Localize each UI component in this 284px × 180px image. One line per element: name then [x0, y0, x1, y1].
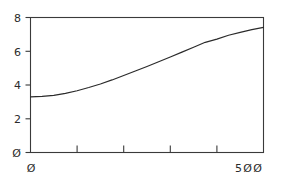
line-chart: 8 6 4 2 Ø Ø 5ØØ: [0, 0, 284, 180]
y-axis-ticks: [26, 18, 31, 153]
x-axis-label-0: Ø: [27, 162, 36, 175]
y-axis-label-6: 6: [14, 46, 21, 59]
data-series-line: [31, 27, 264, 97]
plot-frame-box: [31, 18, 264, 153]
y-axis-label-4: 4: [14, 79, 21, 92]
x-axis-label-500: 5ØØ: [235, 162, 263, 175]
y-axis-label-2: 2: [14, 113, 21, 126]
chart-container: 8 6 4 2 Ø Ø 5ØØ: [0, 0, 284, 180]
y-axis-label-0: Ø: [12, 147, 21, 160]
x-axis-ticks: [77, 146, 217, 153]
y-axis-label-8: 8: [14, 12, 21, 25]
